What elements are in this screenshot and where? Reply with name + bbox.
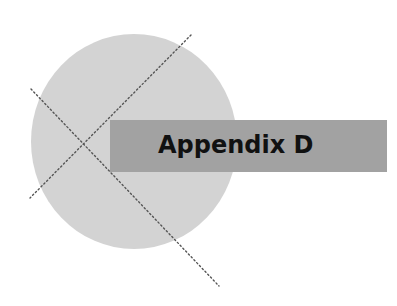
title-banner: Appendix D [110,120,387,172]
dotted-line-ascending [30,35,191,198]
page-title: Appendix D [158,128,313,162]
appendix-title-page: Appendix D [0,0,397,306]
dotted-line-descending [31,89,219,286]
